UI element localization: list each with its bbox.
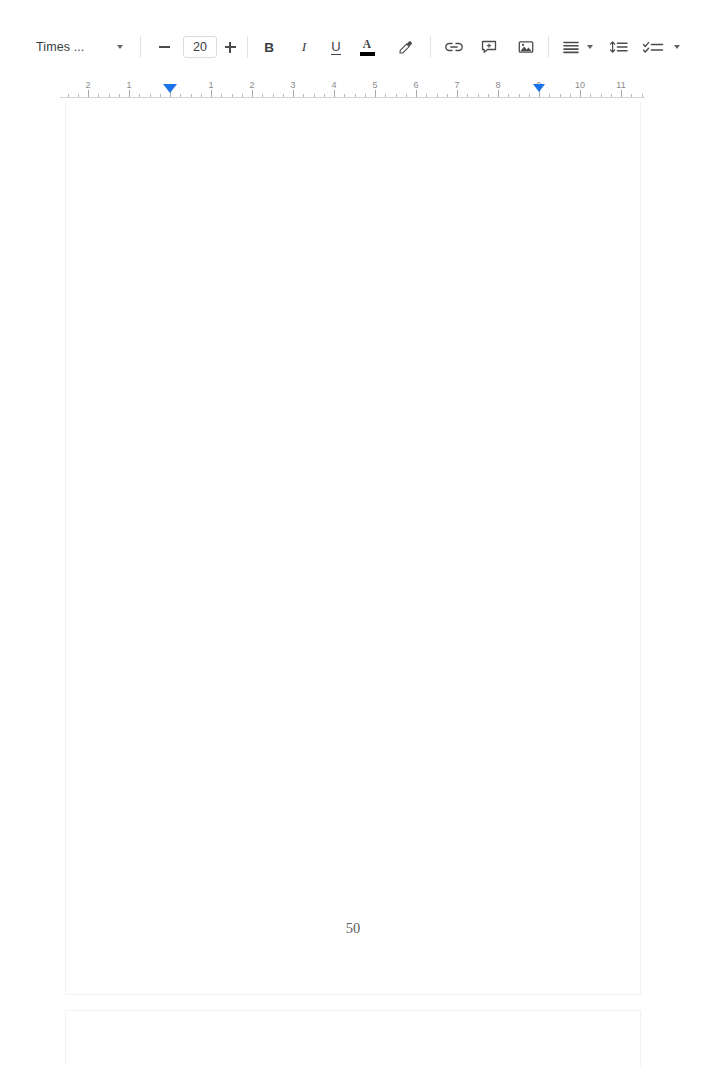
ruler-tick (160, 94, 161, 98)
increase-font-size-button[interactable] (222, 38, 238, 56)
ruler-tick (98, 94, 99, 98)
ruler-tick (334, 90, 335, 97)
add-comment-button[interactable] (479, 38, 499, 56)
document-canvas[interactable]: 50 (0, 102, 702, 1066)
insert-image-button[interactable] (516, 38, 536, 56)
toolbar-divider (140, 36, 141, 58)
text-color-swatch (360, 52, 375, 56)
font-family-selector[interactable]: Times ... (36, 34, 114, 60)
ruler-number: 1 (126, 80, 131, 90)
ruler-tick (314, 94, 315, 98)
ruler-number: 11 (616, 80, 625, 90)
plus-icon (225, 42, 236, 53)
underline-button[interactable]: U (326, 37, 346, 57)
ruler-tick (396, 94, 397, 98)
ruler-tick (385, 94, 386, 98)
line-spacing-button[interactable] (608, 38, 630, 56)
text-align-button[interactable] (561, 38, 581, 56)
ruler-tick (570, 94, 571, 98)
ruler-tick (201, 94, 202, 98)
text-color-button[interactable]: A (357, 35, 377, 59)
ruler-tick (508, 94, 509, 98)
ruler-tick (88, 90, 89, 97)
ruler-tick (365, 94, 366, 98)
ruler-tick (324, 94, 325, 98)
link-icon (444, 40, 464, 54)
underline-icon: U (331, 40, 340, 55)
ruler-tick (457, 90, 458, 97)
image-icon (517, 39, 535, 55)
document-page[interactable] (65, 1010, 641, 1066)
italic-button[interactable]: I (294, 37, 314, 57)
formatting-toolbar: Times ... 20 B I U A (0, 0, 702, 74)
ruler-tick (601, 94, 602, 98)
toolbar-divider (247, 36, 248, 58)
ruler-tick (232, 94, 233, 98)
ruler-tick (139, 94, 140, 98)
ruler-number: 1 (208, 80, 213, 90)
ruler-tick (150, 94, 151, 98)
ruler-tick (406, 94, 407, 98)
document-page[interactable]: 50 (65, 102, 641, 995)
ruler-tick (273, 94, 274, 98)
ruler-number: 2 (249, 80, 254, 90)
ruler-tick (529, 94, 530, 98)
page-gap (0, 996, 702, 1010)
highlight-pen-icon (397, 39, 415, 55)
font-family-label: Times ... (36, 40, 84, 54)
ruler-tick (631, 94, 632, 98)
comment-icon (480, 39, 498, 55)
ruler-number: 8 (495, 80, 500, 90)
ruler-tick (252, 90, 253, 97)
ruler-number: 3 (290, 80, 295, 90)
ruler-tick (519, 94, 520, 98)
font-size-value: 20 (193, 40, 207, 54)
ruler-tick (129, 90, 130, 97)
ruler-number: 6 (413, 80, 418, 90)
text-color-icon: A (363, 39, 371, 50)
checklist-button[interactable] (641, 38, 665, 56)
ruler-number: 4 (331, 80, 336, 90)
bold-icon: B (264, 40, 274, 55)
insert-link-button[interactable] (444, 38, 464, 56)
ruler-tick (262, 94, 263, 98)
checklist-chevron-down-icon[interactable] (674, 45, 680, 49)
ruler-tick (242, 94, 243, 98)
ruler-tick (221, 94, 222, 98)
ruler-tick (560, 94, 561, 98)
ruler-tick (488, 94, 489, 98)
ruler-tick (478, 94, 479, 98)
toolbar-divider (430, 36, 431, 58)
line-spacing-icon (609, 40, 629, 54)
font-family-chevron-down-icon[interactable] (117, 45, 123, 49)
ruler-tick (283, 94, 284, 98)
ruler-tick (498, 90, 499, 97)
ruler-tick (211, 90, 212, 97)
ruler-tick (180, 94, 181, 98)
ruler-tick (580, 90, 581, 97)
ruler-number: 2 (85, 80, 90, 90)
ruler-tick (467, 94, 468, 98)
ruler-tick (355, 94, 356, 98)
right-indent-marker[interactable] (533, 84, 545, 92)
align-icon (562, 40, 580, 54)
ruler-tick (642, 94, 643, 98)
ruler-baseline (60, 97, 645, 98)
decrease-font-size-button[interactable] (156, 38, 172, 56)
page-number: 50 (66, 920, 640, 937)
ruler-tick (437, 94, 438, 98)
bold-button[interactable]: B (259, 37, 279, 57)
text-align-chevron-down-icon[interactable] (587, 45, 593, 49)
ruler-tick (191, 94, 192, 98)
highlight-color-button[interactable] (396, 38, 416, 56)
ruler-tick (621, 90, 622, 97)
left-indent-marker[interactable] (163, 84, 177, 93)
ruler-tick (109, 94, 110, 98)
document-ruler[interactable]: 211234567891011 (0, 80, 702, 102)
italic-icon: I (302, 39, 307, 55)
ruler-tick (293, 90, 294, 97)
minus-icon (159, 46, 170, 48)
ruler-tick (416, 90, 417, 97)
font-size-input[interactable]: 20 (183, 36, 217, 58)
ruler-tick (611, 94, 612, 98)
